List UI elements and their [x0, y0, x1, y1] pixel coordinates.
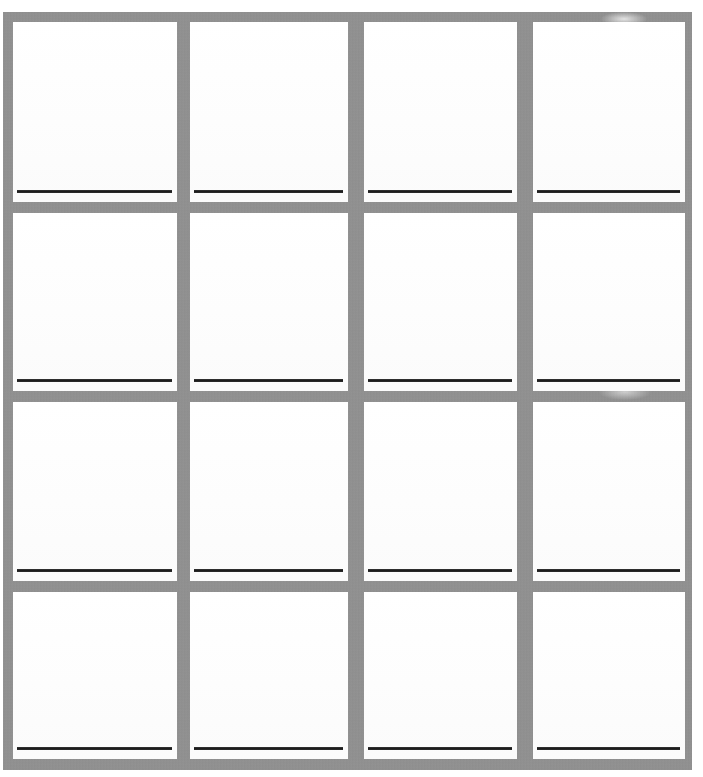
cell-drawing-area[interactable] [190, 213, 348, 391]
cell-rule-line [194, 379, 343, 382]
cell-drawing-area[interactable] [364, 213, 517, 391]
cell-rule-line [537, 747, 680, 750]
cell-rule-line [194, 569, 343, 572]
grid-cell[interactable] [533, 402, 685, 581]
cell-drawing-area[interactable] [533, 592, 685, 759]
cell-drawing-area[interactable] [13, 213, 177, 391]
cell-rule-line [537, 379, 680, 382]
cell-rule-line [368, 190, 512, 193]
cell-drawing-area[interactable] [190, 592, 348, 759]
cell-rule-line [17, 379, 172, 382]
cell-drawing-area[interactable] [533, 402, 685, 581]
cell-drawing-area[interactable] [13, 22, 177, 202]
grid-cell[interactable] [13, 22, 177, 202]
grid-cell[interactable] [533, 213, 685, 391]
grid-cell[interactable] [13, 592, 177, 759]
grid-cell[interactable] [190, 213, 348, 391]
cell-drawing-area[interactable] [364, 592, 517, 759]
grid-cell[interactable] [190, 22, 348, 202]
cell-rule-line [537, 569, 680, 572]
grid-cell[interactable] [13, 213, 177, 391]
grid-container [3, 12, 692, 770]
cell-drawing-area[interactable] [533, 22, 685, 202]
grid-cell[interactable] [13, 402, 177, 581]
cell-rule-line [368, 379, 512, 382]
page-margin-left [0, 0, 3, 777]
page-margin-bottom [0, 770, 703, 777]
grid-cell[interactable] [364, 402, 517, 581]
grid-cell[interactable] [364, 592, 517, 759]
grid-cell[interactable] [190, 592, 348, 759]
cell-rule-line [17, 569, 172, 572]
grid-cell[interactable] [533, 592, 685, 759]
page-margin-top [0, 0, 703, 12]
cell-drawing-area[interactable] [190, 402, 348, 581]
page-margin-right [692, 0, 703, 777]
cell-drawing-area[interactable] [190, 22, 348, 202]
worksheet-page [0, 0, 703, 777]
cell-drawing-area[interactable] [364, 402, 517, 581]
cell-rule-line [17, 190, 172, 193]
grid-cell[interactable] [364, 22, 517, 202]
cell-drawing-area[interactable] [13, 402, 177, 581]
cell-drawing-area[interactable] [533, 213, 685, 391]
cell-rule-line [368, 569, 512, 572]
cell-drawing-area[interactable] [13, 592, 177, 759]
cell-rule-line [537, 190, 680, 193]
grid-cell[interactable] [533, 22, 685, 202]
grid-cell[interactable] [190, 402, 348, 581]
cell-rule-line [194, 190, 343, 193]
cell-rule-line [194, 747, 343, 750]
grid-cell[interactable] [364, 213, 517, 391]
cell-drawing-area[interactable] [364, 22, 517, 202]
cell-rule-line [17, 747, 172, 750]
cell-rule-line [368, 747, 512, 750]
